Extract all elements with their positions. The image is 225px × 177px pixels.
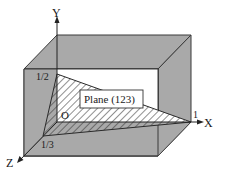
plane-label: Plane (123) <box>84 93 135 106</box>
origin-label: O <box>61 109 69 121</box>
x-axis-arrow-icon <box>197 120 204 125</box>
plane-label-box: Plane (123) <box>80 90 143 108</box>
miller-plane-diagram: Y X Z O 1/2 1 1/3 Plane (123) <box>0 0 225 177</box>
y-axis-label: Y <box>52 6 61 20</box>
x-intercept-label: 1 <box>193 109 198 120</box>
diagram-canvas: Y X Z O 1/2 1 1/3 Plane (123) <box>0 0 225 177</box>
z-axis-label: Z <box>6 156 13 170</box>
x-axis-label: X <box>204 116 213 130</box>
z-intercept-label: 1/3 <box>41 139 54 150</box>
y-intercept-label: 1/2 <box>36 71 49 82</box>
